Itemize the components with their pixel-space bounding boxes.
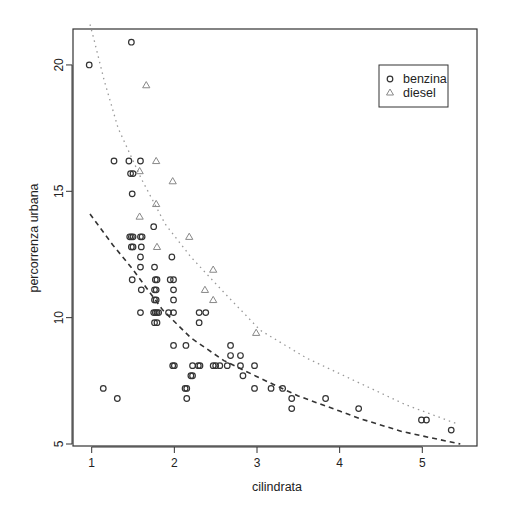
benzina-point xyxy=(126,158,132,164)
benzina-point xyxy=(228,343,234,349)
benzina-point xyxy=(240,373,246,379)
benzina-point xyxy=(169,254,175,260)
x-tick-label: 3 xyxy=(254,456,261,470)
diesel-point xyxy=(210,296,217,302)
benzina-point xyxy=(224,363,230,369)
x-tick-label: 2 xyxy=(171,456,178,470)
benzina-point xyxy=(129,39,135,45)
legend-label-benzina: benzina xyxy=(403,72,447,86)
benzina-point xyxy=(238,353,244,359)
benzina-point xyxy=(252,386,258,392)
x-axis: 12345 xyxy=(88,447,426,470)
benzina-point xyxy=(138,310,144,316)
x-axis-label: cilindrata xyxy=(252,480,302,494)
benzina-point xyxy=(152,264,158,270)
benzina-point xyxy=(171,343,177,349)
benzina-point xyxy=(138,158,144,164)
y-tick-label: 20 xyxy=(52,58,66,72)
benzina-point xyxy=(100,386,106,392)
benzina-point xyxy=(183,343,189,349)
benzina-point xyxy=(138,254,144,260)
legend: benzina diesel xyxy=(379,65,448,107)
benzina-point xyxy=(323,396,329,402)
x-tick-label: 5 xyxy=(419,456,426,470)
x-tick-label: 4 xyxy=(336,456,343,470)
benzina-point xyxy=(138,244,144,250)
y-tick-label: 10 xyxy=(52,311,66,325)
benzina-point xyxy=(268,386,274,392)
diesel-point xyxy=(153,157,160,163)
benzina-point xyxy=(129,277,135,283)
diesel-point xyxy=(153,243,160,249)
benzina-point xyxy=(184,396,190,402)
benzina-point xyxy=(356,406,362,412)
benzina-point xyxy=(217,363,223,369)
benzina-point xyxy=(138,264,144,270)
y-tick-label: 5 xyxy=(52,440,66,447)
benzina-point xyxy=(289,406,295,412)
benzina-point xyxy=(190,363,196,369)
benzina-point xyxy=(115,396,121,402)
benzina-point xyxy=(111,158,117,164)
benzina-point xyxy=(196,310,202,316)
diesel-point xyxy=(143,82,150,88)
benzina-point xyxy=(151,224,157,230)
y-tick-label: 15 xyxy=(52,184,66,198)
legend-label-diesel: diesel xyxy=(403,86,436,100)
benzina-point xyxy=(448,427,454,433)
diesel-point xyxy=(136,213,143,219)
diesel-point xyxy=(253,329,260,335)
y-axis: 5101520 xyxy=(52,58,72,447)
y-axis-label: percorrenza urbana xyxy=(27,183,41,292)
benzina-point xyxy=(171,297,177,303)
scatter-chart: 12345 5101520 cilindrata percorrenza urb… xyxy=(0,0,506,524)
benzina-fit-curve xyxy=(90,214,460,444)
benzina-point xyxy=(86,62,92,68)
diesel-point xyxy=(201,286,208,292)
benzina-point xyxy=(252,363,258,369)
benzina-point xyxy=(203,310,209,316)
benzina-point xyxy=(196,320,202,326)
benzina-point xyxy=(289,396,295,402)
benzina-point xyxy=(138,287,144,293)
diesel-point xyxy=(210,266,217,272)
x-tick-label: 1 xyxy=(88,456,95,470)
diesel-point xyxy=(169,178,176,184)
benzina-point xyxy=(171,287,177,293)
diesel-point xyxy=(186,233,193,239)
benzina-point xyxy=(228,353,234,359)
benzina-point xyxy=(238,363,244,369)
diesel-point xyxy=(136,167,143,173)
benzina-point xyxy=(129,191,135,197)
